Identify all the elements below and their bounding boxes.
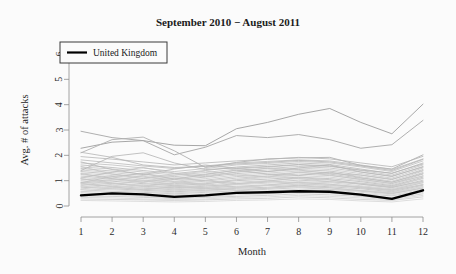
y-tick-label: 4 (54, 102, 65, 107)
y-tick-label: 5 (54, 77, 65, 82)
x-axis-title: Month (238, 246, 267, 257)
x-tick-label: 11 (387, 226, 397, 237)
x-tick-label: 8 (296, 226, 301, 237)
y-tick-label: 3 (54, 128, 65, 133)
y-tick-label: 0 (54, 204, 65, 209)
x-tick-label: 10 (356, 226, 366, 237)
x-tick-label: 7 (265, 226, 270, 237)
y-tick-label: 1 (54, 178, 65, 183)
x-tick-label: 4 (172, 226, 177, 237)
line-chart: September 2010 − August 2011 Avg. # of a… (0, 0, 456, 274)
y-axis-title: Avg. # of attacks (19, 95, 30, 166)
x-tick-label: 6 (234, 226, 239, 237)
x-tick-label: 2 (110, 226, 115, 237)
chart-legend[interactable]: United Kingdom (60, 42, 167, 63)
x-tick-label: 9 (327, 226, 332, 237)
chart-title: September 2010 − August 2011 (156, 16, 300, 28)
x-tick-label: 3 (141, 226, 146, 237)
x-tick-label: 12 (418, 226, 428, 237)
figure-container: September 2010 − August 2011 Avg. # of a… (0, 0, 456, 274)
legend-label-united-kingdom: United Kingdom (93, 48, 158, 58)
x-tick-label: 5 (203, 226, 208, 237)
y-tick-label: 2 (54, 153, 65, 158)
x-tick-label: 1 (79, 226, 84, 237)
